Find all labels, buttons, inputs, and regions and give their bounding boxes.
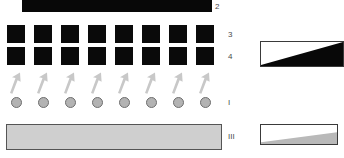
circle-icon xyxy=(88,94,106,110)
arrow-up-icon xyxy=(34,70,52,94)
circle-icon xyxy=(61,94,79,110)
layer-3-square xyxy=(196,25,214,43)
layer-4-square xyxy=(142,47,160,65)
figure-caption xyxy=(272,150,344,158)
figure-canvas: 2 3 4 xyxy=(0,0,344,158)
layer-3-label: 3 xyxy=(228,31,232,39)
arrow-up-icon xyxy=(196,70,214,94)
layer-4-square xyxy=(115,47,133,65)
layer-4-square xyxy=(61,47,79,65)
layer-2-bar xyxy=(22,0,212,12)
layer-4-square-row xyxy=(7,47,214,65)
layer-3-square-row xyxy=(7,25,214,43)
arrow-up-icon xyxy=(115,70,133,94)
layer-4-square xyxy=(88,47,106,65)
layer-3-square xyxy=(34,25,52,43)
arrow-up-icon xyxy=(88,70,106,94)
circle-row xyxy=(7,94,214,110)
circle-icon xyxy=(115,94,133,110)
layer-4-square xyxy=(34,47,52,65)
layer-4-square xyxy=(196,47,214,65)
arrow-up-icon xyxy=(142,70,160,94)
layer-4-label: 4 xyxy=(228,53,232,61)
layer-4-square xyxy=(7,47,25,65)
circle-icon xyxy=(34,94,52,110)
layer-III-label: III xyxy=(228,133,235,141)
layer-4-square xyxy=(169,47,187,65)
circle-icon xyxy=(169,94,187,110)
light-wedge-panel xyxy=(260,124,338,145)
arrow-up-icon xyxy=(7,70,25,94)
layer-2-label: 2 xyxy=(215,3,219,11)
layer-III-slab xyxy=(6,124,222,150)
arrow-up-icon xyxy=(169,70,187,94)
layer-3-square xyxy=(88,25,106,43)
arrow-row xyxy=(7,70,214,94)
circle-icon xyxy=(7,94,25,110)
layer-3-square xyxy=(7,25,25,43)
layer-3-square xyxy=(142,25,160,43)
circle-icon xyxy=(196,94,214,110)
circle-icon xyxy=(142,94,160,110)
layer-3-square xyxy=(169,25,187,43)
arrow-up-icon xyxy=(61,70,79,94)
layer-3-square xyxy=(61,25,79,43)
dark-wedge-panel xyxy=(260,41,344,67)
layer-I-label: I xyxy=(228,99,230,107)
layer-3-square xyxy=(115,25,133,43)
